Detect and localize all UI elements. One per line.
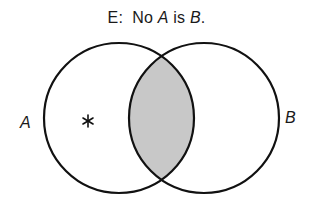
asterisk-icon	[83, 115, 93, 127]
label-b: B	[285, 109, 296, 127]
venn-diagram	[0, 0, 313, 210]
label-a: A	[20, 114, 31, 132]
